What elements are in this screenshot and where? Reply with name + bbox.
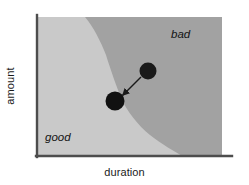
plot-svg [0, 0, 249, 185]
region-label-good: good [45, 131, 71, 143]
figure-canvas: bad good duration amount [0, 0, 249, 185]
end-point-marker [106, 92, 125, 111]
region-label-bad: bad [171, 28, 190, 40]
x-axis-label: duration [0, 166, 249, 178]
y-axis-label: amount [4, 56, 16, 116]
start-point-marker [140, 63, 157, 80]
